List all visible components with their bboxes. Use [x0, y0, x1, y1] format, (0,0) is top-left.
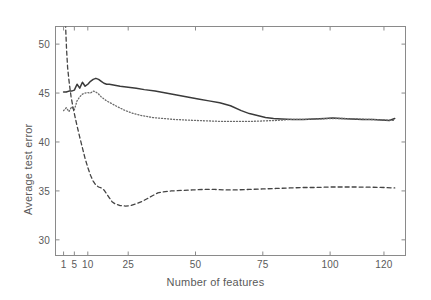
- axes-frame: [56, 27, 406, 256]
- x-tick-label: 120: [375, 259, 392, 270]
- data-series-group: [64, 0, 395, 206]
- chart-plot-area: [0, 0, 431, 300]
- series-dotted-curve: [64, 91, 395, 121]
- x-tick-label: 5: [71, 259, 77, 270]
- y-tick-label: 45: [28, 88, 50, 99]
- figure-container: 3035404550 1510255075100120 Number of fe…: [0, 0, 431, 300]
- x-axis-title: Number of features: [0, 276, 431, 288]
- x-tick-label: 25: [122, 259, 134, 270]
- x-tick-label: 1: [61, 259, 67, 270]
- y-axis-title: Average test error: [22, 124, 34, 215]
- x-axis-ticks: [64, 27, 384, 256]
- x-tick-label: 100: [321, 259, 338, 270]
- y-tick-label: 50: [28, 39, 50, 50]
- series-solid-curve: [64, 78, 395, 120]
- y-tick-label: 30: [28, 234, 50, 245]
- y-axis-ticks: [56, 44, 406, 240]
- x-tick-label: 50: [190, 259, 202, 270]
- x-tick-label: 10: [82, 259, 94, 270]
- x-tick-label: 75: [257, 259, 269, 270]
- series-dashed-curve: [64, 0, 395, 206]
